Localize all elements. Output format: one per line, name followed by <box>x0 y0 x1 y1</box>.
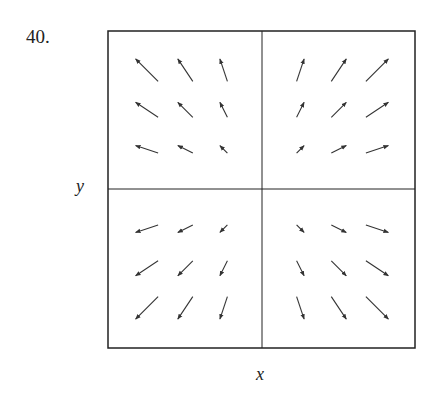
vector-arrow <box>366 261 389 276</box>
vector-arrow <box>297 261 305 276</box>
vector-arrow <box>331 225 346 233</box>
vector-arrow <box>178 146 193 154</box>
vector-arrow <box>178 261 193 276</box>
vector-arrow <box>220 59 228 82</box>
vector-arrow <box>136 225 159 233</box>
vector-arrow <box>178 59 193 82</box>
vector-arrow <box>297 225 305 233</box>
vector-arrow <box>178 297 193 320</box>
vector-arrow <box>366 225 389 233</box>
vector-arrow <box>220 297 228 320</box>
vector-arrow <box>136 146 159 154</box>
vector-arrow <box>366 146 389 154</box>
vector-arrow <box>220 102 228 117</box>
vector-arrow <box>136 297 159 320</box>
vector-arrow <box>136 59 159 82</box>
vector-arrow <box>366 102 389 117</box>
vector-arrow <box>331 146 346 154</box>
vector-field-plot <box>0 0 434 399</box>
vector-arrow <box>366 297 389 320</box>
vector-arrow <box>220 225 228 233</box>
vector-arrow <box>331 59 346 82</box>
vector-arrow <box>297 146 305 154</box>
vector-arrow <box>366 59 389 82</box>
vector-arrow <box>331 102 346 117</box>
vector-arrow <box>297 59 305 82</box>
vector-arrow <box>220 261 228 276</box>
vector-arrow <box>136 261 159 276</box>
vector-arrow <box>178 225 193 233</box>
vector-arrow <box>297 102 305 117</box>
vector-arrow <box>136 102 159 117</box>
vector-arrow <box>331 297 346 320</box>
vector-arrow <box>297 297 305 320</box>
vector-arrow <box>220 146 228 154</box>
vector-arrow <box>178 102 193 117</box>
vector-arrow <box>331 261 346 276</box>
